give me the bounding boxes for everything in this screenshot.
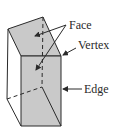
vertex-label: Vertex (78, 38, 109, 52)
front-face (21, 56, 61, 126)
left-bottom-edge (7, 99, 21, 126)
vertex-arrow (63, 48, 76, 55)
top-face (8, 17, 61, 56)
left-back-edge (7, 29, 8, 99)
edge-label: Edge (84, 82, 109, 96)
face-label: Face (69, 18, 92, 32)
prism-diagram: Face Vertex Edge (0, 0, 123, 134)
prism-figure: Face Vertex Edge (0, 0, 123, 134)
